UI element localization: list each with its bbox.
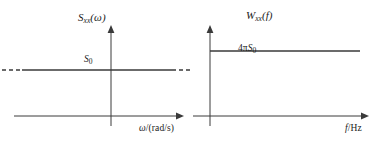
s0-level-label: S0 bbox=[84, 55, 93, 66]
left-y-axis-argument: (ω) bbox=[90, 11, 105, 23]
right-y-axis-subscript: xx bbox=[255, 14, 262, 23]
s0-subscript: 0 bbox=[89, 57, 93, 66]
four-pi-coefficient: 4π bbox=[238, 43, 248, 53]
right-y-axis-argument: (f) bbox=[262, 9, 273, 21]
spectral-density-figure: Sxx(ω) S0 ω/(rad/s) Wxx(f) 4πS0 f/Hz bbox=[0, 0, 386, 149]
right-y-axis-label: Wxx(f) bbox=[246, 10, 273, 23]
left-y-axis-label: Sxx(ω) bbox=[78, 12, 106, 25]
left-x-axis-symbol: ω bbox=[139, 123, 146, 133]
left-x-axis-label: ω/(rad/s) bbox=[139, 124, 174, 134]
four-pi-s0-subscript: 0 bbox=[253, 46, 257, 55]
y-axis-arrowhead bbox=[108, 25, 115, 33]
right-x-axis-unit: /Hz bbox=[348, 123, 362, 133]
right-x-axis-label: f/Hz bbox=[345, 124, 362, 134]
left-x-axis-unit: /(rad/s) bbox=[146, 123, 174, 133]
right-y-axis-symbol: W bbox=[246, 9, 255, 21]
panel-one-sided-spectrum: Wxx(f) 4πS0 f/Hz bbox=[193, 0, 386, 149]
panel-two-sided-spectrum: Sxx(ω) S0 ω/(rad/s) bbox=[0, 0, 193, 149]
four-pi-s0-level-label: 4πS0 bbox=[238, 44, 256, 55]
x-axis-arrowhead bbox=[361, 113, 369, 120]
x-axis-arrowhead bbox=[176, 113, 184, 120]
y-axis-arrowhead bbox=[207, 25, 214, 33]
